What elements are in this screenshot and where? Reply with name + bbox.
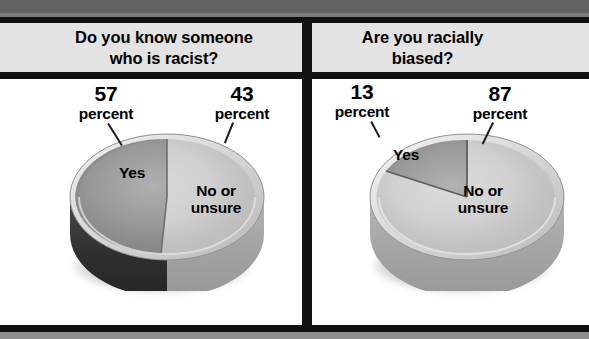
header-box-biased: Are you racially biased? bbox=[312, 23, 589, 72]
callout-value: 57 bbox=[68, 83, 144, 104]
callout-value: 13 bbox=[324, 81, 400, 102]
infographic-root: Do you know someone who is racist? Are y… bbox=[0, 0, 589, 339]
panel-biased: 13 percent 87 percent Yes No or unsure bbox=[312, 79, 589, 325]
callout-no-biased: 87 percent bbox=[460, 83, 540, 122]
slice-label-yes-racist: Yes bbox=[103, 164, 161, 181]
rule-below-bottom bbox=[0, 332, 589, 339]
callout-yes-biased: 13 percent bbox=[324, 81, 400, 120]
slice-label-yes-biased: Yes bbox=[380, 146, 432, 163]
header-box-racist: Do you know someone who is racist? bbox=[0, 23, 302, 72]
panel-racist: 57 percent 43 percent Yes No or unsure bbox=[0, 79, 302, 325]
page-title-biased: Are you racially biased? bbox=[362, 27, 539, 67]
slice-label-no-biased: No or unsure bbox=[444, 182, 522, 216]
callout-yes-racist: 57 percent bbox=[68, 83, 144, 122]
callout-unit: percent bbox=[324, 104, 400, 120]
callout-unit: percent bbox=[68, 106, 144, 122]
callout-value: 87 bbox=[460, 83, 540, 104]
rule-under-headers bbox=[0, 72, 589, 79]
panel-divider bbox=[302, 23, 312, 325]
callout-value: 43 bbox=[202, 83, 282, 104]
callout-no-racist: 43 percent bbox=[202, 83, 282, 122]
rule-bottom bbox=[0, 325, 589, 332]
callout-unit: percent bbox=[460, 106, 540, 122]
callout-unit: percent bbox=[202, 106, 282, 122]
slice-label-no-racist: No or unsure bbox=[177, 182, 255, 216]
page-title-racist: Do you know someone who is racist? bbox=[49, 27, 253, 67]
